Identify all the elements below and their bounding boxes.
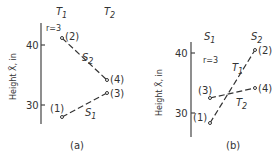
column-label-t1: T1 (56, 6, 67, 20)
tick-label-40-a: 40 (26, 40, 39, 51)
point-2-b (254, 49, 257, 52)
column-label-s2: S2 (251, 31, 262, 45)
column-label-t2: T2 (104, 6, 115, 20)
point-label-2-a: (2) (65, 31, 79, 42)
panel-a: 40 30 Height X̄, in T1 T2 r=3 (2) (4) (3… (8, 6, 125, 151)
line-label-t2: T2 (236, 97, 247, 111)
point-label-2-b: (2) (258, 45, 272, 56)
column-label-s1: S1 (204, 31, 215, 45)
point-label-3-b: (3) (198, 85, 212, 96)
point-4-a (106, 79, 109, 82)
point-label-1-a: (1) (50, 103, 64, 114)
tick-label-30-a: 30 (26, 100, 39, 111)
panel-b: 40 30 Height X̄, in S1 S2 r=3 (2) (4) (3… (154, 31, 273, 151)
r-label-a: r=3 (46, 24, 61, 33)
line-label-t1: T1 (232, 62, 243, 76)
point-4-b (254, 87, 257, 90)
y-axis-label-b: Height X̄, in (154, 69, 164, 116)
line-label-s1: S1 (85, 107, 96, 121)
interaction-diagram: 40 30 Height X̄, in T1 T2 r=3 (2) (4) (3… (0, 0, 279, 159)
point-2-a (61, 37, 64, 40)
point-label-3-a: (3) (110, 88, 124, 99)
caption-a: (a) (70, 140, 84, 151)
point-3-a (106, 92, 109, 95)
y-axis-label-a: Height X̄, in (8, 53, 18, 100)
point-label-1-b: (1) (193, 112, 207, 123)
tick-label-30-b: 30 (175, 108, 188, 119)
point-3-b (209, 97, 212, 100)
caption-b: (b) (226, 140, 240, 151)
line-t2 (210, 88, 255, 98)
line-label-s2: S2 (82, 52, 93, 66)
tick-label-40-b: 40 (175, 48, 188, 59)
point-label-4-b: (4) (258, 83, 272, 94)
point-1-a (61, 116, 64, 119)
point-1-b (209, 122, 212, 125)
point-label-4-a: (4) (110, 74, 124, 85)
r-label-b: r=3 (203, 56, 218, 65)
